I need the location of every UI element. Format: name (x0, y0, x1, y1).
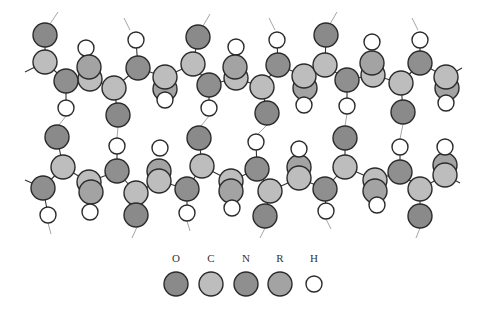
hydrogen-atom (40, 207, 56, 223)
oxygen-atom (255, 101, 279, 125)
hydrogen-atom (412, 32, 428, 48)
hydrogen-atom (392, 139, 408, 155)
nitrogen-atom (126, 56, 150, 80)
carbon-atom (258, 179, 282, 203)
oxygen-atom (124, 203, 148, 227)
hydrogen-bond (416, 228, 420, 238)
oxygen-atom (186, 25, 210, 49)
top-polypeptide-chain (33, 23, 459, 127)
oxygen-atom (391, 100, 415, 124)
carbon-atom (287, 166, 311, 190)
carbon-atom (389, 71, 413, 95)
hydrogen-bond (50, 12, 58, 24)
oxygen-atom (333, 126, 357, 150)
carbon-atom (313, 53, 337, 77)
hydrogen-atom (291, 141, 307, 157)
beta-sheet-diagram: OCNRH (0, 0, 484, 313)
hydrogen-bond (400, 124, 403, 139)
oxygen-atom (253, 204, 277, 228)
hydrogen-bond (269, 18, 275, 30)
carbon-atom (33, 50, 57, 74)
atom-legend: OCNRH (164, 252, 322, 296)
hydrogen-atom (269, 32, 285, 48)
oxygen-atom (314, 23, 338, 47)
oxygen-atom (106, 103, 130, 127)
hydrogen-bond (260, 228, 265, 238)
carbon-atom (124, 181, 148, 205)
hydrogen-atom (179, 205, 195, 221)
carbon-atom (199, 272, 223, 296)
legend-item-h: H (306, 252, 322, 292)
nitrogen-atom (388, 160, 412, 184)
hydrogen-atom (339, 98, 355, 114)
legend-item-n: N (234, 252, 258, 296)
legend-label: C (207, 252, 214, 264)
r-group-atom (268, 272, 292, 296)
hydrogen-atom (58, 100, 74, 116)
nitrogen-atom (245, 157, 269, 181)
carbon-atom (434, 65, 458, 89)
hydrogen-atom (438, 95, 454, 111)
hydrogen-bond (48, 223, 51, 234)
carbon-atom (333, 155, 357, 179)
carbon-atom (292, 64, 316, 88)
r-group-atom (77, 55, 101, 79)
carbon-atom (147, 169, 171, 193)
carbon-atom (190, 154, 214, 178)
hydrogen-bond (330, 12, 337, 24)
legend-label: H (310, 252, 318, 264)
oxygen-atom (187, 126, 211, 150)
hydrogen-atom (82, 204, 98, 220)
hydrogen-atom (201, 100, 217, 116)
hydrogen-atom (369, 197, 385, 213)
legend-item-r: R (268, 252, 292, 296)
legend-item-c: C (199, 252, 223, 296)
hydrogen-bond (345, 114, 347, 126)
hydrogen-bond (117, 127, 118, 138)
carbon-atom (102, 76, 126, 100)
carbon-atom (181, 52, 205, 76)
hydrogen-atom (437, 139, 453, 155)
hydrogen-bond (124, 18, 130, 30)
nitrogen-atom (175, 177, 199, 201)
hydrogen-bond (412, 18, 418, 30)
nitrogen-atom (335, 68, 359, 92)
nitrogen-atom (197, 73, 221, 97)
r-group-atom (360, 51, 384, 75)
hydrogen-bond (203, 14, 210, 26)
hydrogen-atom (306, 276, 322, 292)
nitrogen-atom (408, 51, 432, 75)
hydrogen-bond (326, 219, 331, 229)
bottom-polypeptide-chain (31, 125, 457, 228)
hydrogen-atom (152, 140, 168, 156)
carbon-atom (433, 163, 457, 187)
hydrogen-bond (258, 125, 267, 134)
hydrogen-bond (59, 116, 66, 125)
nitrogen-atom (313, 177, 337, 201)
hydrogen-atom (296, 97, 312, 113)
hydrogen-atom (364, 34, 380, 50)
hydrogen-atom (318, 203, 334, 219)
nitrogen-atom (105, 159, 129, 183)
nitrogen-atom (266, 53, 290, 77)
hydrogen-bond (187, 221, 190, 231)
nitrogen-atom (54, 69, 78, 93)
hydrogen-atom (224, 200, 240, 216)
hydrogen-atom (128, 32, 144, 48)
oxygen-atom (45, 125, 69, 149)
hydrogen-atom (109, 138, 125, 154)
hydrogen-atom (157, 92, 173, 108)
legend-label: N (242, 252, 250, 264)
hydrogen-atom (228, 39, 244, 55)
legend-label: O (172, 252, 180, 264)
carbon-atom (153, 65, 177, 89)
hydrogen-bond (201, 116, 209, 126)
nitrogen-atom (234, 272, 258, 296)
hydrogen-atom (78, 40, 94, 56)
legend-item-o: O (164, 252, 188, 296)
oxygen-atom (408, 204, 432, 228)
hydrogen-atom (248, 134, 264, 150)
nitrogen-atom (31, 176, 55, 200)
carbon-atom (408, 177, 432, 201)
carbon-atom (51, 155, 75, 179)
